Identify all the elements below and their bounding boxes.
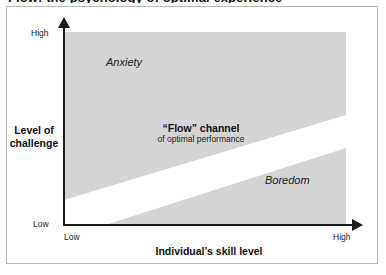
region-label-flow-title: “Flow” channel xyxy=(146,122,256,134)
region-label-anxiety: Anxiety xyxy=(106,56,142,68)
y-axis-title-line2: challenge xyxy=(10,137,58,149)
region-label-flow: “Flow” channel of optimal performance xyxy=(146,122,256,145)
x-axis-tick-low: Low xyxy=(64,232,80,242)
x-axis-title: Individual’s skill level xyxy=(64,245,354,257)
x-axis-arrow-icon xyxy=(352,219,363,231)
x-axis-line xyxy=(64,224,354,226)
y-axis-title-line1: Level of xyxy=(14,124,54,136)
region-label-boredom: Boredom xyxy=(265,174,310,186)
y-axis-title: Level of challenge xyxy=(6,124,62,149)
y-axis-line xyxy=(63,26,65,226)
y-axis-tick-high: High xyxy=(31,28,48,38)
y-axis-tick-low: Low xyxy=(33,219,49,229)
x-axis-tick-high: High xyxy=(333,232,350,242)
figure-title-clipped: Flow: the psychology of optimal experien… xyxy=(0,0,386,3)
region-label-flow-subtitle: of optimal performance xyxy=(146,134,256,145)
figure-title-text: Flow: the psychology of optimal experien… xyxy=(0,0,386,3)
y-axis-arrow-icon xyxy=(58,17,70,28)
flow-channel-diagram: Flow: the psychology of optimal experien… xyxy=(0,0,386,275)
